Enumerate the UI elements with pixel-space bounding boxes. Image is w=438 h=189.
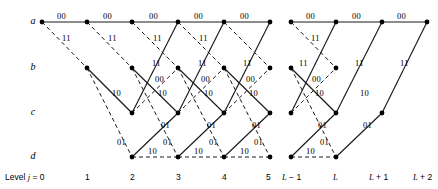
edges-layer [42,22,427,157]
edge-output-label-11-13: 11 [152,58,161,68]
level-label-7: L [333,172,338,182]
edge-output-label-00-7: 00 [397,11,406,21]
edge-output-label-10-41: 10 [240,146,249,156]
trellis-node-d-7 [334,155,339,160]
trellis-canvas [0,0,438,189]
edge-output-label-10-40: 10 [194,146,203,156]
trellis-node-a-1 [85,20,90,25]
edge-output-label-01-35: 01 [163,137,172,147]
edge-output-label-11-15: 11 [243,58,252,68]
state-label-b: b [26,61,40,72]
edge-output-label-01-37: 01 [254,137,263,147]
edge-output-label-01-36: 01 [209,137,218,147]
level-label-8: L + 1 [369,172,388,182]
edge-output-label-01-33: 01 [363,120,372,130]
edge-output-label-10-28: 10 [360,88,369,98]
trellis-node-c-4 [222,111,227,116]
edge-output-label-00-0: 00 [57,11,66,21]
trellis-edge-solid-01-38 [336,113,382,157]
edge-output-label-00-5: 00 [306,11,315,21]
edge-output-label-00-2: 00 [149,11,158,21]
trellis-node-b-4 [222,66,227,71]
trellis-node-a-9 [425,20,430,25]
trellis-node-a-6 [289,20,294,25]
trellis-node-d-6 [289,155,294,160]
edge-output-label-10-25: 10 [204,88,213,98]
level-label-2: 2 [130,172,135,182]
trellis-edge-dashed-11-9 [87,22,132,68]
trellis-edge-dashed-11-8 [42,22,87,68]
edge-output-label-11-14: 11 [198,58,207,68]
state-label-c: c [26,106,40,117]
trellis-node-c-3 [176,111,181,116]
edge-output-label-00-6: 00 [352,11,361,21]
trellis-node-c-2 [130,111,135,116]
edge-output-label-00-3: 00 [194,11,203,21]
trellis-diagram-root: abcd Level j = 012345L − 1LL + 1L + 2 00… [0,0,438,189]
trellis-node-c-7 [334,111,339,116]
edge-output-label-01-32: 01 [318,120,327,130]
trellis-node-c-6 [289,111,294,116]
edge-output-label-11-16: 11 [299,58,308,68]
level-label-5: 5 [266,172,271,182]
trellis-node-a-3 [176,20,181,25]
trellis-node-c-8 [380,111,385,116]
trellis-node-b-2 [130,66,135,71]
trellis-node-a-4 [222,20,227,25]
edge-output-label-11-12: 11 [311,33,320,43]
edge-output-label-01-38: 01 [320,137,329,147]
trellis-node-c-5 [268,111,273,116]
level-label-0: Level j = 0 [5,172,44,182]
edge-output-label-10-39: 10 [148,146,157,156]
edge-output-label-11-10: 11 [153,33,162,43]
trellis-node-b-6 [289,66,294,71]
level-label-4: 4 [222,172,227,182]
trellis-node-a-2 [130,20,135,25]
edge-output-label-11-8: 11 [62,33,71,43]
edge-output-label-01-30: 01 [207,120,216,130]
trellis-node-a-8 [380,20,385,25]
trellis-node-b-5 [268,66,273,71]
edge-output-label-11-11: 11 [199,33,208,43]
trellis-node-d-3 [176,155,181,160]
edge-output-label-00-22: 00 [312,74,321,84]
edge-output-label-11-18: 11 [400,58,409,68]
edge-output-label-11-17: 11 [355,58,364,68]
edge-output-label-00-19: 00 [155,74,164,84]
edge-output-label-10-23: 10 [112,88,121,98]
trellis-node-b-3 [176,66,181,71]
edge-output-label-10-26: 10 [249,88,258,98]
level-label-6: L − 1 [282,172,301,182]
trellis-node-b-7 [334,66,339,71]
trellis-node-a-0 [40,20,45,25]
trellis-node-a-5 [268,20,273,25]
edge-output-label-01-34: 01 [117,137,126,147]
trellis-node-b-1 [85,66,90,71]
edge-output-label-10-24: 10 [158,88,167,98]
edge-output-label-10-27: 10 [315,88,324,98]
trellis-node-a-7 [334,20,339,25]
edge-output-label-00-4: 00 [240,11,249,21]
level-label-3: 3 [176,172,181,182]
trellis-edge-solid-10-14 [87,68,132,113]
trellis-node-d-5 [268,155,273,160]
trellis-node-d-4 [222,155,227,160]
edge-output-label-00-20: 00 [201,74,210,84]
trellis-node-d-2 [130,155,135,160]
edge-output-label-10-42: 10 [306,146,315,156]
edge-output-label-00-1: 00 [103,11,112,21]
trellis-edge-dashed-11-13 [291,22,336,68]
edge-output-label-00-21: 00 [246,74,255,84]
edge-output-label-11-9: 11 [108,33,117,43]
edge-output-label-01-31: 01 [252,120,261,130]
level-label-9: L + 2 [413,172,432,182]
state-label-d: d [26,150,40,161]
level-label-1: 1 [85,172,90,182]
edge-output-label-01-29: 01 [161,120,170,130]
state-label-a: a [26,15,40,26]
